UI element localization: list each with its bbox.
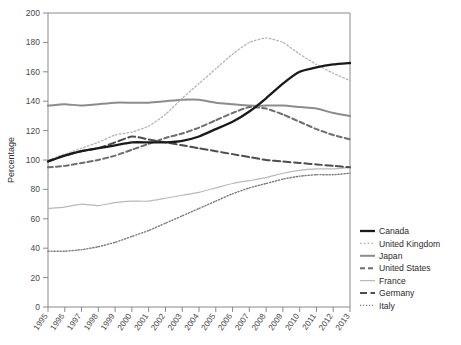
x-axis-ticks: 1995199619971998199920002001200220032004…	[32, 307, 352, 332]
x-tick-label: 1998	[82, 312, 100, 332]
series-line-canada	[48, 63, 350, 161]
x-tick-label: 2002	[149, 312, 167, 332]
x-tick-label: 2004	[183, 312, 201, 332]
series-line-germany	[48, 136, 350, 167]
data-series-group	[48, 38, 350, 251]
x-tick-label: 2013	[334, 312, 352, 332]
legend-label-japan: Japan	[379, 251, 403, 261]
series-line-france	[48, 167, 350, 208]
y-tick-label: 100	[26, 155, 40, 165]
legend-label-italy: Italy	[379, 301, 395, 311]
x-tick-label: 1996	[49, 312, 67, 332]
y-tick-label: 180	[26, 37, 40, 47]
legend-label-united-states: United States	[379, 263, 431, 273]
x-tick-label: 2006	[216, 312, 234, 332]
series-line-italy	[48, 173, 350, 251]
x-tick-label: 1997	[65, 312, 83, 332]
x-tick-label: 2000	[116, 312, 134, 332]
y-tick-label: 40	[31, 243, 41, 253]
y-axis-ticks: 020406080100120140160180200	[26, 8, 48, 312]
y-tick-label: 160	[26, 67, 40, 77]
x-tick-label: 2001	[132, 312, 150, 332]
line-chart: 020406080100120140160180200 199519961997…	[0, 0, 461, 345]
y-tick-label: 200	[26, 8, 40, 18]
legend-label-canada: Canada	[379, 226, 409, 236]
y-tick-label: 140	[26, 96, 40, 106]
y-tick-label: 60	[31, 214, 41, 224]
y-axis-title: Percentage	[6, 137, 16, 183]
y-tick-label: 80	[31, 184, 41, 194]
legend-label-germany: Germany	[379, 288, 415, 298]
chart-container: 020406080100120140160180200 199519961997…	[0, 0, 461, 345]
chart-legend: CanadaUnited KingdomJapanUnited StatesFr…	[360, 226, 440, 310]
y-tick-label: 20	[31, 273, 41, 283]
x-tick-label: 2010	[283, 312, 301, 332]
y-tick-label: 0	[35, 302, 40, 312]
x-tick-label: 2009	[267, 312, 285, 332]
y-tick-label: 120	[26, 126, 40, 136]
legend-label-united-kingdom: United Kingdom	[379, 239, 440, 249]
plot-frame	[48, 13, 350, 307]
x-tick-label: 2007	[233, 312, 251, 332]
x-tick-label: 2011	[301, 312, 319, 332]
x-tick-label: 2005	[200, 312, 218, 332]
x-tick-label: 1999	[99, 312, 117, 332]
x-tick-label: 2003	[166, 312, 184, 332]
x-tick-label: 2008	[250, 312, 268, 332]
series-line-japan	[48, 100, 350, 116]
x-tick-label: 1995	[32, 312, 50, 332]
x-tick-label: 2012	[317, 312, 335, 332]
legend-label-france: France	[379, 276, 406, 286]
